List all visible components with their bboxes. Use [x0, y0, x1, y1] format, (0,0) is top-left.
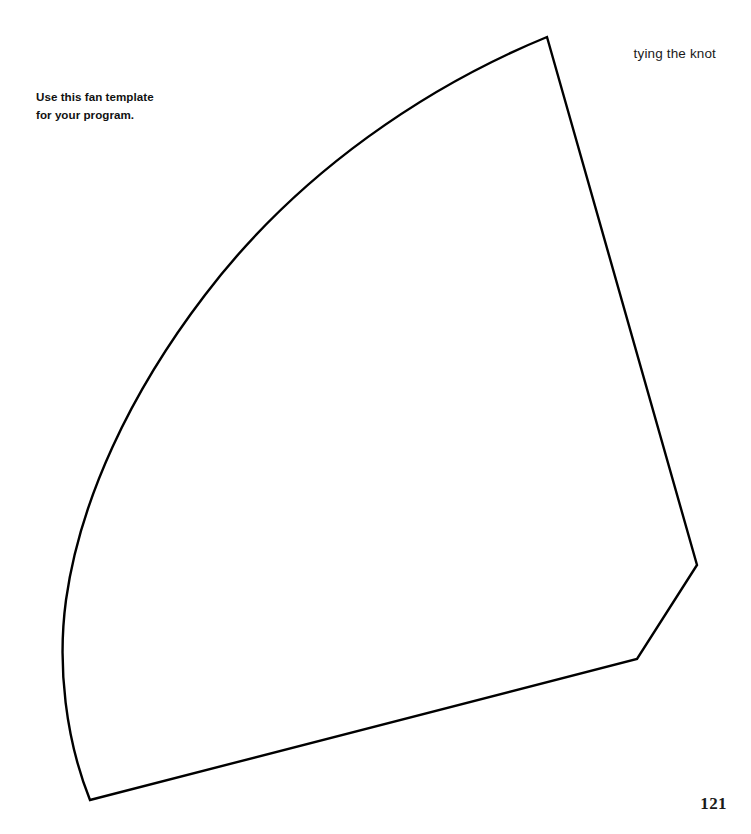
page-canvas: tying the knot Use this fan template for… — [0, 0, 751, 834]
fan-template-outline — [63, 37, 697, 800]
caption-line-1: Use this fan template — [36, 88, 246, 106]
caption-line-2: for your program. — [36, 106, 246, 124]
page-number: 121 — [700, 794, 727, 814]
caption-block: Use this fan template for your program. — [36, 88, 246, 123]
running-head: tying the knot — [634, 46, 716, 61]
fan-template-figure — [0, 0, 751, 834]
